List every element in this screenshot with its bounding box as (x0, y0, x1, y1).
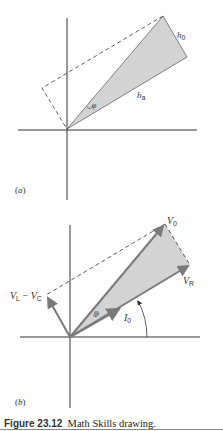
label-i0: I0 (124, 313, 131, 324)
vector-vl-minus-vc (48, 298, 70, 337)
label-phi-b: φ (94, 309, 98, 317)
phase-arc-b (138, 301, 147, 337)
label-vl-minus-vc: VL − VC (10, 291, 42, 302)
panel-b-label: (b) (15, 397, 26, 407)
caption-rule (0, 429, 223, 430)
figure-caption-text: Math Skills drawing. (68, 418, 156, 429)
label-vr: VR (183, 276, 194, 287)
panel-b-diagram (0, 0, 223, 431)
figure-number: Figure 23.12 (4, 418, 62, 429)
label-v0: V0 (167, 216, 177, 227)
figure-caption: Figure 23.12 Math Skills drawing. (4, 418, 156, 429)
